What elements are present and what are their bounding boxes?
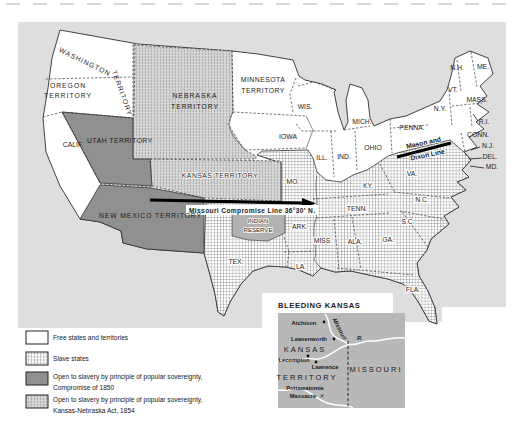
label-calif: CALIF. <box>63 141 84 148</box>
label-oregon-1: OREGON <box>50 82 86 89</box>
label-tex: TEX. <box>228 258 243 265</box>
label-sc: S.C. <box>401 218 414 225</box>
legend-label-1854-line1: Open to slavery by principle of popular … <box>53 396 203 404</box>
legend-label-slave: Slave states <box>53 355 90 362</box>
label-la: LA. <box>296 263 306 270</box>
inset-label-kansas: KANSAS <box>284 345 326 354</box>
inset-label-leavenworth: Leavenworth <box>291 336 327 342</box>
label-mo: MO. <box>287 178 300 185</box>
legend-swatch-slave <box>26 352 48 365</box>
label-mass: MASS. <box>466 96 487 103</box>
label-conn: CONN. <box>467 131 489 138</box>
label-ark: ARK. <box>292 223 308 230</box>
label-indian-1: INDIAN <box>248 217 269 224</box>
label-ill: ILL. <box>316 154 327 161</box>
label-nh: N.H. <box>450 64 464 71</box>
label-tenn: TENN. <box>347 205 368 212</box>
legend-swatch-free <box>26 331 48 344</box>
label-nebraska-2: TERRITORY <box>171 103 219 110</box>
inset-label-atchison: Atchison <box>292 320 317 326</box>
label-ala: ALA. <box>348 238 363 245</box>
inset-missouri-river-suffix: R. <box>357 335 363 341</box>
compromise-label: Missouri Compromise Line 36°30′ N. <box>189 207 315 215</box>
label-del: DEL. <box>482 153 497 160</box>
label-utah-territory: UTAH TERRITORY <box>87 137 153 144</box>
label-va: VA. <box>407 170 418 177</box>
label-nc: N.C. <box>415 196 429 203</box>
inset-label-pottawatomie-2: Massacre <box>290 393 317 399</box>
legend-label-1854-line2: Kansas-Nebraska Act, 1854 <box>53 407 135 414</box>
legend-label-1850-line1: Open to slavery by principle of popular … <box>53 373 203 381</box>
label-iowa: IOWA <box>279 133 297 140</box>
legend-swatch-1850 <box>26 372 48 385</box>
label-nebraska-1: NEBRASKA <box>172 92 217 99</box>
inset-label-lawrence: Lawrence <box>312 364 340 370</box>
label-new-mexico-territory: NEW MEXICO TERRITORY <box>99 212 201 219</box>
inset-label-pottawatomie-1: Pottawatomie <box>286 385 324 391</box>
historical-map-page: Missouri Compromise Line 36°30′ N. Mason… <box>0 0 521 432</box>
legend-label-free: Free states and territories <box>53 334 129 341</box>
atchison-dot <box>323 321 326 324</box>
label-ky: KY. <box>363 182 373 189</box>
label-penna: PENNA. <box>399 124 424 131</box>
label-kansas-territory: KANSAS TERRITORY <box>182 172 258 179</box>
label-fla: FLA. <box>406 286 420 293</box>
label-mich: MICH. <box>352 118 371 125</box>
label-ga: GA. <box>382 236 394 243</box>
label-ny: N.Y. <box>434 105 446 112</box>
inset-title: BLEEDING KANSAS <box>278 301 360 310</box>
label-wis: WIS. <box>298 103 313 110</box>
label-ri: R.I. <box>479 118 490 125</box>
label-oregon-2: TERRITORY <box>44 92 92 99</box>
leavenworth-dot <box>333 338 336 341</box>
legend-label-1850-line2: Compromise of 1850 <box>53 384 115 392</box>
massacre-site-marker: ✕ <box>320 393 325 399</box>
us-slavery-map-1854: Missouri Compromise Line 36°30′ N. Mason… <box>0 0 521 432</box>
label-ohio: OHIO <box>364 144 381 151</box>
map-legend: Free states and territories Slave states… <box>26 331 203 414</box>
label-ind: IND. <box>337 153 351 160</box>
label-minnesota-1: MINNESOTA <box>241 76 285 83</box>
label-minnesota-2: TERRITORY <box>241 87 285 94</box>
legend-swatch-1854 <box>26 395 48 408</box>
label-indian-2: RESERVE <box>243 226 272 233</box>
label-nj: N.J. <box>482 142 494 149</box>
label-vt: VT. <box>448 86 458 93</box>
label-miss: MISS. <box>314 237 333 244</box>
label-md: MD. <box>486 163 499 170</box>
lawrence-dot <box>315 361 318 364</box>
inset-label-missouri: MISSOURI <box>349 365 402 374</box>
inset-label-lecompton: Lecompton <box>278 357 310 363</box>
inset-label-territory: TERRITORY <box>276 373 337 382</box>
label-me: ME. <box>477 63 489 70</box>
bleeding-kansas-inset: BLEEDING KANSAS Atchison Leavenworth Lec… <box>276 301 405 408</box>
